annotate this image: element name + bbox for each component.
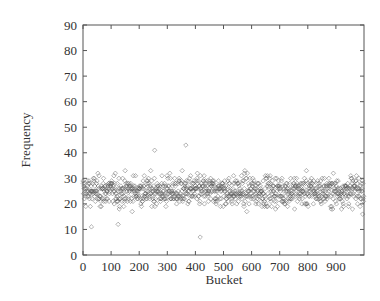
x-tick-label: 600 [242,259,262,274]
x-tick-label: 0 [80,259,87,274]
data-point [242,186,246,190]
y-tick-label: 40 [64,145,77,160]
y-tick-label: 30 [64,171,77,186]
data-point [184,143,188,147]
y-tick-label: 60 [64,94,77,109]
data-point [152,148,156,152]
data-point [292,207,296,211]
data-point [295,199,299,203]
y-tick-label: 0 [71,248,78,263]
data-point [275,204,279,208]
data-point [122,204,126,208]
data-point [245,209,249,213]
data-point [153,204,157,208]
data-point [123,168,127,172]
data-point [198,235,202,239]
data-point [190,181,194,185]
data-point [339,207,343,211]
data-point [276,179,280,183]
data-point [327,176,331,180]
y-axis: 0102030405060708090 [64,18,364,263]
data-point [304,168,308,172]
data-point [216,179,220,183]
x-axis-title: Bucket [206,272,243,287]
data-point [302,176,306,180]
data-point [218,204,222,208]
y-axis-title: Frequency [18,112,33,167]
data-point [101,176,105,180]
data-point [116,222,120,226]
data-point [101,181,105,185]
data-point [160,174,164,178]
data-point [311,202,315,206]
data-point [274,176,278,180]
x-tick-label: 400 [186,259,206,274]
data-point [180,168,184,172]
data-point [231,174,235,178]
y-tick-label: 10 [64,222,77,237]
y-tick-label: 70 [64,69,77,84]
x-tick-label: 800 [298,259,318,274]
y-tick-label: 50 [64,120,77,135]
x-tick-label: 900 [326,259,346,274]
data-point [150,204,154,208]
data-point [164,204,168,208]
data-point [89,225,93,229]
data-point [247,202,251,206]
data-point [274,199,278,203]
data-point [172,176,176,180]
data-point [331,171,335,175]
x-tick-label: 200 [129,259,149,274]
x-tick-label: 100 [101,259,121,274]
y-tick-label: 90 [64,18,77,33]
data-points [81,143,366,239]
data-point [235,202,239,206]
data-point [130,209,134,213]
x-tick-label: 300 [158,259,178,274]
scatter-chart: 0100200300400500600700800900 01020304050… [0,0,380,301]
data-point [273,207,277,211]
data-point [142,174,146,178]
x-axis: 0100200300400500600700800900 [80,25,346,274]
data-point [202,202,206,206]
data-point [84,204,88,208]
data-point [350,207,354,211]
y-tick-label: 80 [64,43,77,58]
data-point [174,202,178,206]
y-tick-label: 20 [64,196,77,211]
data-point [93,199,97,203]
plot-frame [83,25,364,255]
x-tick-label: 700 [270,259,290,274]
data-point [149,168,153,172]
data-point [88,204,92,208]
